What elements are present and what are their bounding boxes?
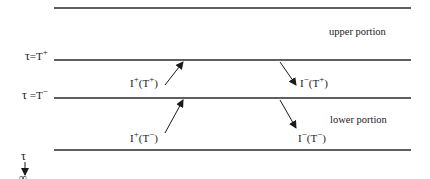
arg-sign: + <box>319 74 324 84</box>
arrow-down-t-plus <box>280 62 296 85</box>
equals-t: =T <box>30 50 43 62</box>
depth-axis-infinity: ∞ <box>19 172 27 179</box>
intensity-down-t-minus: I−(T−) <box>298 133 326 144</box>
intensity-down-t-plus: I−(T+) <box>300 78 328 89</box>
t-plus-boundary-label: τ=T+ <box>25 50 48 62</box>
minus-sign: − <box>43 86 48 96</box>
arg-sign: − <box>317 129 322 139</box>
direction-sign: − <box>304 74 309 84</box>
intensity-up-t-minus: I+(T−) <box>130 133 158 144</box>
upper-portion-label: upper portion <box>329 27 386 38</box>
arrow-down-t-minus <box>280 100 296 128</box>
depth-axis-tau: τ <box>21 150 26 162</box>
arg-sign: − <box>149 129 154 139</box>
arg-sign: + <box>149 74 154 84</box>
tau-symbol: τ <box>22 88 27 102</box>
intensity-up-t-plus: I+(T+) <box>130 78 158 89</box>
direction-sign: + <box>134 74 139 84</box>
equals-t: =T <box>30 89 43 101</box>
t-minus-boundary-label: τ =T− <box>22 89 48 101</box>
arrow-up-t-plus <box>165 62 183 85</box>
direction-sign: + <box>134 129 139 139</box>
direction-sign: − <box>302 129 307 139</box>
lower-portion-label: lower portion <box>330 115 387 126</box>
arrow-up-t-minus <box>165 100 183 133</box>
plus-sign: + <box>43 47 48 57</box>
